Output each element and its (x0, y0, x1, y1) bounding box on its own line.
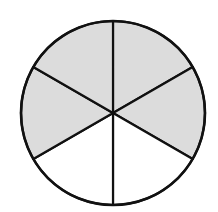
circle-svg (0, 0, 218, 212)
fraction-circle-diagram (0, 0, 218, 212)
